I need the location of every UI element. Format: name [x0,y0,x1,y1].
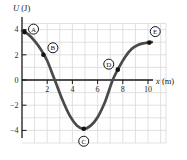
data-point-D [115,67,120,72]
data-point-A [22,30,27,35]
y-axis-title: U (J) [13,3,30,13]
x-tick-label: 4 [70,85,74,94]
x-tick-label: 8 [121,85,125,94]
axes [22,17,153,138]
potential-energy-graph: 246810420−2−4 U (J) x (m) ABCDE [0,0,187,160]
chart-canvas: 246810420−2−4 U (J) x (m) ABCDE [0,0,187,160]
y-tick-label: −4 [10,126,19,135]
y-tick-label: 4 [15,25,19,34]
data-point-B [41,53,46,58]
point-label-letter-A: A [31,26,36,34]
x-tick-label: 2 [45,85,49,94]
grid [22,24,166,144]
x-tick-label: 10 [144,85,152,94]
point-label-letter-E: E [153,28,157,36]
y-tick-label: 0 [15,76,19,85]
point-label-letter-C: C [81,138,86,146]
data-point-C [81,126,86,131]
point-label-letter-B: B [51,44,56,52]
y-tick-label: −2 [10,101,19,110]
x-axis-title: x (m) [155,76,174,86]
x-tick-label: 6 [96,85,100,94]
data-point-E [147,40,152,45]
y-tick-label: 2 [15,51,19,60]
point-label-letter-D: D [106,61,111,69]
